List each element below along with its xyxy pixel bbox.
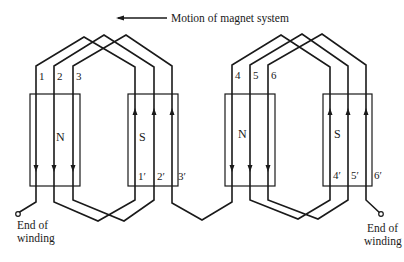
coil-label-2: 2 [57, 70, 63, 82]
coil-label-6: 6 [271, 69, 277, 81]
north-label-2: N [238, 127, 247, 141]
terminal-right-caption-line1: End of [367, 222, 398, 234]
south-label-1: S [139, 130, 146, 144]
coil-label-3: 3 [76, 70, 82, 82]
motion-arrow: Motion of magnet system [116, 12, 289, 25]
motion-caption: Motion of magnet system [171, 12, 289, 25]
terminal-left-icon [16, 212, 21, 217]
coil-end-label-1: 1′ [138, 170, 146, 182]
coil-label-5: 5 [253, 69, 259, 81]
coil-label-1: 1 [39, 70, 45, 82]
terminal-right-caption-line2: winding [364, 235, 402, 248]
terminal-left-caption-line2: winding [17, 232, 55, 245]
coil-end-label-4: 4′ [333, 169, 341, 181]
arrow-left-icon [116, 16, 124, 21]
south-label-2: S [334, 127, 341, 141]
coil-end-label-3: 3′ [178, 170, 186, 182]
coil-label-4: 4 [235, 69, 241, 81]
north-label-1: N [56, 130, 65, 144]
coil-end-label-2: 2′ [157, 170, 165, 182]
terminal-left-caption-line1: End of [17, 219, 48, 231]
terminal-right-icon [379, 212, 384, 217]
coil-end-label-5: 5′ [351, 169, 359, 181]
coil-1 [18, 34, 381, 221]
current-arrows [34, 108, 369, 172]
winding-diagram: Motion of magnet system N S N S 1 2 3 4 … [0, 0, 404, 262]
coil-end-label-6: 6′ [374, 169, 382, 181]
